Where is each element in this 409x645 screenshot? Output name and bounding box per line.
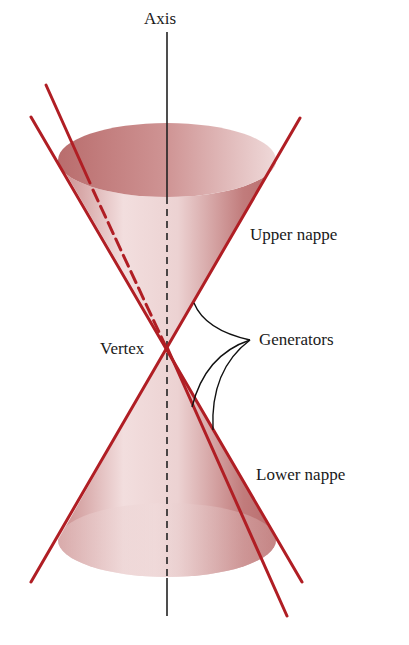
upper-nappe-label: Upper nappe [250, 226, 337, 243]
axis-label: Axis [144, 10, 176, 27]
lower-nappe-label: Lower nappe [256, 466, 345, 483]
double-cone-diagram [0, 0, 409, 645]
generators-label: Generators [259, 331, 334, 348]
vertex-label: Vertex [100, 340, 144, 357]
